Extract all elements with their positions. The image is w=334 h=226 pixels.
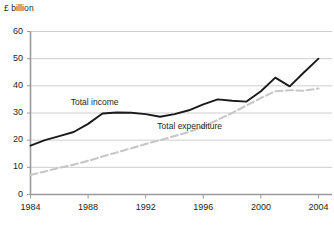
chart-container: £ billion 0102030405060 1984198819921996… — [0, 0, 334, 226]
y-tick-label-0: 0 — [6, 189, 23, 199]
x-tick-label-1984: 1984 — [11, 202, 51, 212]
series-label-total-income: Total income — [71, 97, 119, 107]
x-tick-label-1988: 1988 — [68, 202, 108, 212]
y-tick-label-60: 60 — [6, 26, 23, 36]
line-chart-plot — [0, 0, 334, 226]
x-tick-label-1992: 1992 — [126, 202, 166, 212]
x-tick-label-2000: 2000 — [241, 202, 281, 212]
y-tick-label-40: 40 — [6, 80, 23, 90]
y-tick-label-30: 30 — [6, 107, 23, 117]
x-tick-label-1996: 1996 — [183, 202, 223, 212]
y-tick-label-50: 50 — [6, 53, 23, 63]
x-tick-label-2004: 2004 — [299, 202, 334, 212]
y-tick-label-10: 10 — [6, 161, 23, 171]
series-label-total-expenditure: Total expenditure — [157, 121, 222, 131]
y-tick-label-20: 20 — [6, 134, 23, 144]
